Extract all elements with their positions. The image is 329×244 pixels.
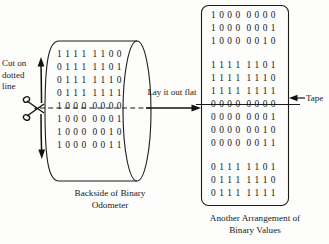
sheet-binary-values: 1 0 0 0 0 0 0 0 1 0 0 0 0 0 0 1 1 0 0 0 …: [211, 9, 289, 200]
sheet-row: 0 0 0 0 0 0 0 0: [211, 98, 289, 111]
caption-another-arrangement-of-binary-values: Another Arrangement of Binary Values: [185, 213, 325, 236]
cut-on-dotted-line-label: Cut on dotted line: [2, 58, 46, 93]
cylinder-row: 1 0 0 0 0 0 0 0: [57, 100, 139, 113]
sheet-row: 0 1 1 1 1 1 0 1: [211, 161, 289, 174]
figure-canvas: Cut on dotted line 1 1 1 1 1 1 0 0 0 1 1…: [0, 0, 329, 244]
cylinder-row: 0 1 1 1 1 1 1 1: [57, 87, 139, 100]
arrow-right-icon: [146, 104, 201, 111]
sheet-row: 0 0 0 0 0 0 1 1: [211, 137, 289, 150]
cylinder-row: 1 0 0 0 0 0 1 1: [57, 139, 139, 152]
sheet-row: 1 1 1 1 1 1 1 0: [211, 72, 289, 85]
row-gap: [211, 150, 289, 161]
sheet-row: 1 1 1 1 1 1 1 1: [211, 85, 289, 98]
cylinder-row: 1 0 0 0 0 0 0 1: [57, 113, 139, 126]
arrow-down-icon: [38, 114, 45, 159]
cylinder-row: 0 1 1 1 1 1 0 1: [57, 61, 139, 74]
sheet-row: 1 0 0 0 0 0 0 1: [211, 22, 289, 35]
cylinder-row: 1 0 0 0 0 0 1 0: [57, 126, 139, 139]
cylinder-binary-values: 1 1 1 1 1 1 0 0 0 1 1 1 1 1 0 1 0 1 1 1 …: [57, 48, 139, 152]
arrow-left-icon: [289, 95, 305, 101]
sheet-row: 0 1 1 1 1 1 1 1: [211, 187, 289, 200]
lay-it-out-flat-label: Lay it out flat: [144, 87, 200, 98]
sheet-row: 0 0 0 0 0 0 1 0: [211, 124, 289, 137]
row-gap: [211, 48, 289, 59]
sheet-row: 0 1 1 1 1 1 1 0: [211, 174, 289, 187]
sheet-row: 1 0 0 0 0 0 1 0: [211, 35, 289, 48]
sheet-row: 1 1 1 1 1 1 0 1: [211, 59, 289, 72]
caption-backside-of-binary-odometer: Backside of Binary Odometer: [45, 188, 175, 211]
cylinder-row: 0 1 1 1 1 1 1 0: [57, 74, 139, 87]
sheet-row: 1 0 0 0 0 0 0 0: [211, 9, 289, 22]
cylinder-row: 1 1 1 1 1 1 0 0: [57, 48, 139, 61]
sheet-row: 0 0 0 0 0 0 0 1: [211, 111, 289, 124]
tape-label: Tape: [306, 93, 323, 104]
